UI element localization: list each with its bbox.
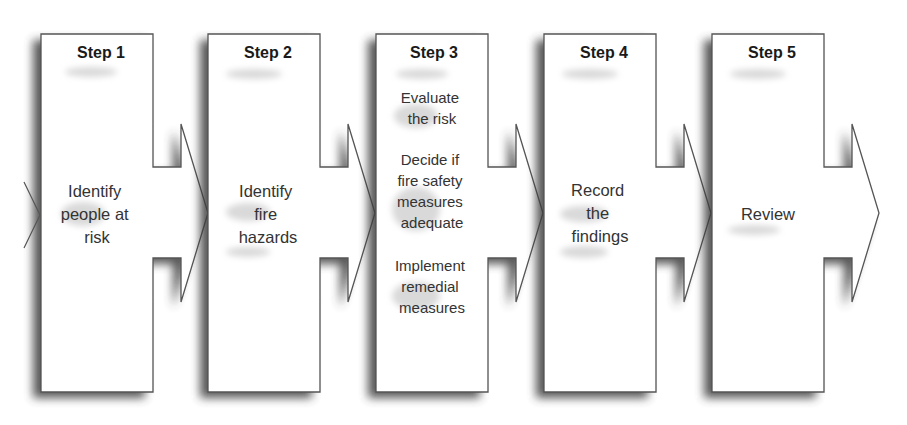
step-title: Step 5	[748, 44, 796, 61]
step-title: Step 1	[77, 44, 125, 61]
step-5: Step 5 Review	[704, 34, 879, 398]
fire-risk-assessment-diagram: Step 1 Identify people at risk Step 2 Id…	[0, 0, 907, 425]
step-substep-implement: Implement remedial measures	[395, 257, 469, 316]
step-title: Step 3	[410, 44, 458, 61]
step-4: Step 4 Record the findings	[536, 34, 711, 398]
step-title: Step 2	[244, 44, 292, 61]
step-description: Review	[741, 205, 795, 223]
step-2: Step 2 Identify fire hazards	[200, 34, 375, 398]
step-3: Step 3 Evaluate the risk Decide if fire …	[368, 34, 543, 398]
step-title: Step 4	[580, 44, 628, 61]
step-1: Step 1 Identify people at risk	[24, 34, 208, 398]
